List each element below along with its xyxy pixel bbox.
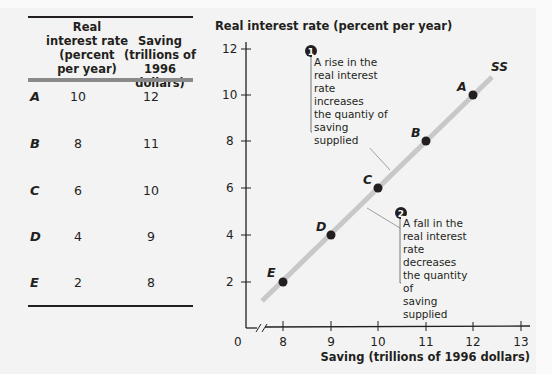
point-d: [327, 231, 336, 240]
svg-text:8: 8: [279, 335, 287, 349]
axis-break-mark: [262, 324, 267, 332]
svg-text:E: E: [267, 265, 276, 280]
svg-text:8: 8: [226, 134, 234, 148]
annotation-2-leader: [367, 208, 400, 228]
svg-text:B: B: [411, 125, 421, 140]
svg-text:12: 12: [222, 42, 237, 56]
x-axis: [265, 326, 530, 327]
point-e: [279, 278, 288, 287]
point-c: [374, 184, 383, 193]
svg-text:C: C: [363, 172, 373, 187]
svg-text:10: 10: [222, 88, 237, 102]
svg-text:4: 4: [226, 228, 234, 242]
annotation-2-text: A fall in the real interest rate decreas…: [401, 216, 475, 322]
point-b: [422, 137, 431, 146]
svg-text:9: 9: [327, 335, 335, 349]
svg-text:2: 2: [226, 275, 234, 289]
y-axis-label: Real interest rate (percent per year): [215, 19, 452, 33]
svg-text:A: A: [456, 79, 467, 94]
x-axis-label: Saving (trillions of 1996 dollars): [321, 350, 531, 364]
svg-text:10: 10: [370, 335, 385, 349]
point-a: [469, 91, 478, 100]
svg-text:D: D: [316, 219, 326, 234]
ss-curve-label: SS: [491, 60, 508, 74]
x-ticks: 8 9 10 11 12 13: [279, 321, 528, 349]
svg-text:12: 12: [465, 335, 480, 349]
svg-text:13: 13: [513, 335, 528, 349]
svg-text:11: 11: [418, 335, 433, 349]
annotation-1-text: A rise in the real interest rate increas…: [312, 55, 390, 148]
origin-label: 0: [234, 335, 242, 349]
svg-text:6: 6: [226, 181, 234, 195]
